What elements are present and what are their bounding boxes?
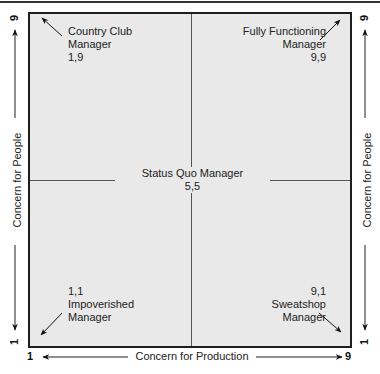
fully-functioning-subtitle: Manager [243,38,326,51]
country-club-coords: 1,9 [68,51,132,64]
sweatshop-coords: 9,1 [272,285,326,298]
impoverished-coords: 1,1 [68,285,134,298]
bottom-axis-max: 9 [345,350,351,362]
bottom-axis-min: 1 [27,350,33,362]
sweatshop-title: Sweatshop [272,298,326,311]
right-axis-max: 9 [358,15,370,21]
status-quo-label: Status Quo Manager 5,5 [115,167,270,193]
impoverished-title: Impoverished [68,298,134,311]
bottom-axis-label: Concern for Production [128,350,256,362]
status-quo-title: Status Quo Manager [115,167,270,180]
sweatshop-subtitle: Manager [272,311,326,324]
managerial-grid: Country Club Manager 1,9 Fully Functioni… [28,12,352,348]
impoverished-subtitle: Manager [68,311,134,324]
left-axis-max: 9 [8,15,20,21]
country-club-label: Country Club Manager 1,9 [68,25,132,64]
right-axis-min: 1 [358,339,370,345]
left-axis-min: 1 [8,339,20,345]
country-club-title: Country Club [68,25,132,38]
sweatshop-label: 9,1 Sweatshop Manager [272,285,326,324]
impoverished-label: 1,1 Impoverished Manager [68,285,134,324]
fully-functioning-label: Fully Functioning Manager 9,9 [243,25,326,64]
top-rule [0,1,380,3]
fully-functioning-coords: 9,9 [243,51,326,64]
status-quo-coords: 5,5 [115,180,270,193]
left-axis-label: Concern for People [11,127,23,233]
fully-functioning-title: Fully Functioning [243,25,326,38]
country-club-subtitle: Manager [68,38,132,51]
right-axis-label: Concern for People [361,127,373,233]
